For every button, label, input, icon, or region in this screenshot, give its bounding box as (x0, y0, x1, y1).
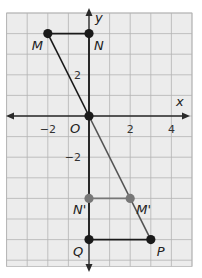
y-axis-label: y (94, 10, 103, 25)
point-O (84, 111, 93, 120)
point-label-Q: Q (73, 244, 83, 259)
point-M (43, 29, 52, 38)
point-label-N': N' (73, 202, 86, 217)
point-P (146, 235, 155, 244)
y-axis-arrow-up-icon (86, 8, 93, 16)
y-axis-arrow-down-icon (86, 264, 93, 272)
point-label-M': M' (136, 202, 151, 217)
x-tick-label: 2 (127, 123, 134, 136)
origin-label: O (70, 121, 80, 136)
y-tick-label: −2 (65, 151, 81, 164)
point-label-N: N (94, 38, 104, 53)
x-axis-label: x (175, 94, 184, 109)
x-tick-label: −2 (40, 123, 56, 136)
point-label-P: P (157, 244, 165, 259)
point-M' (126, 194, 135, 203)
point-Q (84, 235, 93, 244)
x-tick-label: 4 (168, 123, 175, 136)
point-label-M: M (32, 38, 43, 53)
y-tick-label: 2 (74, 69, 81, 82)
point-N (84, 29, 93, 38)
coordinate-plane: MNN'M'QP x y O −2242−2 (0, 0, 202, 278)
